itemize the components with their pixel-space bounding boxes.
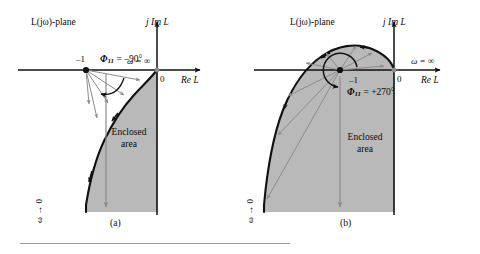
origin-label-a: 0: [160, 75, 165, 84]
footer-divider: [20, 243, 290, 244]
critical-point-a: [83, 67, 89, 73]
critical-point-label-a: –1: [76, 55, 85, 64]
plane-label-a: L(jω)-plane: [31, 18, 76, 28]
omega-infinity-label-b: ω = ∞: [411, 57, 434, 66]
phase-value-a: = –90°: [117, 54, 143, 64]
enclosed-area-label-b: Enclosed area: [330, 133, 400, 154]
enclosed-line1-a: Enclosed: [99, 128, 159, 138]
real-axis-label-b: Re L: [421, 76, 439, 86]
enclosed-line1-b: Enclosed: [330, 133, 400, 143]
phase-label-b: Φ11 = +270°: [347, 88, 395, 98]
origin-label-b: 0: [397, 75, 402, 84]
omega-infinity-point-b: [392, 68, 397, 73]
imag-axis-label-a: j Im L: [146, 18, 169, 28]
phase-symbol-a: Φ: [100, 54, 108, 64]
critical-point-label-b: –1: [349, 76, 358, 85]
phase-label-a: Φ11 = –90°: [100, 55, 142, 65]
nyquist-figure: [0, 0, 480, 254]
phase-subscript-a: 11: [108, 57, 115, 65]
phase-arc-a: [101, 78, 124, 94]
enclosed-line2-a: area: [99, 140, 159, 150]
caption-a: (a): [110, 219, 121, 229]
panel-b-plot: [254, 22, 440, 215]
imag-axis-label-b: j Im L: [383, 18, 406, 28]
enclosed-line2-b: area: [330, 145, 400, 155]
phase-symbol-b: Φ: [347, 87, 355, 97]
plane-label-b: L(jω)-plane: [290, 18, 335, 28]
phase-value-b: = +270°: [364, 87, 395, 97]
critical-point-b: [337, 67, 343, 73]
omega-infinity-point-a: [155, 68, 160, 73]
enclosed-area-label-a: Enclosed area: [99, 128, 159, 149]
phase-subscript-b: 11: [355, 90, 362, 98]
omega-zero-label-b: ω → 0: [246, 199, 255, 223]
panel-a-plot: [18, 22, 200, 215]
omega-zero-label-a: ω → 0: [35, 199, 44, 223]
caption-b: (b): [340, 219, 351, 229]
real-axis-label-a: Re L: [181, 76, 199, 86]
